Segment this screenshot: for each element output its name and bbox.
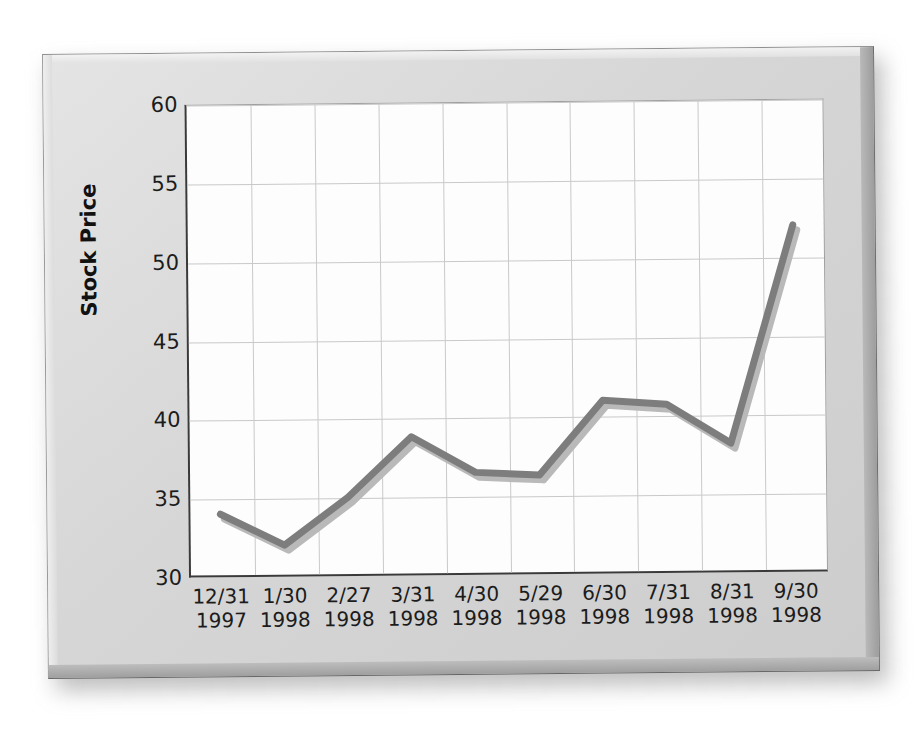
y-axis-tick-label: 40 bbox=[134, 408, 180, 432]
x-axis-tick-label: 7/311998 bbox=[643, 581, 694, 629]
x-axis-tick-label: 1/301998 bbox=[259, 584, 310, 632]
y-axis-tick-label: 60 bbox=[131, 93, 177, 117]
y-axis-tick-label: 30 bbox=[136, 566, 182, 590]
y-axis-tick-label: 35 bbox=[135, 487, 181, 511]
x-axis-tick-label: 12/311997 bbox=[192, 585, 250, 633]
x-axis-tick-label: 5/291998 bbox=[515, 582, 566, 630]
chart-plaque: Stock Price 30354045505560 12/3119971/30… bbox=[42, 46, 880, 679]
x-axis-tick-label: 9/301998 bbox=[771, 580, 822, 628]
y-axis-tick-label: 55 bbox=[132, 172, 178, 196]
plaque-slab: Stock Price 30354045505560 12/3119971/30… bbox=[42, 46, 880, 679]
x-axis-tick-label: 4/301998 bbox=[451, 583, 502, 631]
screenshot-canvas: Stock Price 30354045505560 12/3119971/30… bbox=[0, 0, 922, 732]
line-chart: Stock Price 30354045505560 12/3119971/30… bbox=[43, 47, 881, 680]
series-line-main bbox=[218, 225, 796, 546]
x-axis-tick-labels: 12/3119971/3019982/2719983/3119984/30199… bbox=[189, 579, 829, 657]
series-line-stock-price bbox=[184, 99, 828, 578]
series-line-shadow bbox=[222, 230, 800, 551]
y-axis-tick-labels: 30354045505560 bbox=[127, 105, 182, 578]
y-axis-tick-label: 45 bbox=[134, 329, 180, 353]
x-axis-tick-label: 6/301998 bbox=[579, 581, 630, 629]
x-axis-tick-label: 8/311998 bbox=[707, 580, 758, 628]
x-axis-tick-label: 3/311998 bbox=[387, 583, 438, 631]
x-axis-tick-label: 2/271998 bbox=[323, 584, 374, 632]
y-axis-tick-label: 50 bbox=[133, 250, 179, 274]
y-axis-title-container: Stock Price bbox=[89, 55, 95, 680]
